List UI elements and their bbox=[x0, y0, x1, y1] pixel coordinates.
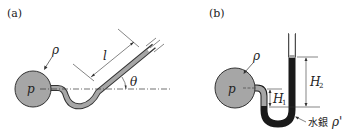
mercury-density-label: ρ' bbox=[331, 115, 342, 129]
angle-label: θ bbox=[130, 75, 138, 89]
pressure-label-a: p bbox=[27, 82, 35, 96]
u-tube bbox=[250, 34, 292, 124]
pressure-label-b: p bbox=[228, 82, 236, 96]
inclined-tube-outline bbox=[48, 46, 154, 106]
l-dimension-line bbox=[91, 42, 134, 77]
mercury-arrow bbox=[295, 117, 299, 120]
manometer-diagram: (a) l θ ρ p (b) bbox=[0, 0, 350, 134]
panel-b: (b) p ρ H 1 H 2 水銀 bbox=[209, 7, 342, 129]
h1-subscript: 1 bbox=[282, 99, 286, 107]
mercury-label: 水銀 bbox=[308, 116, 328, 128]
h2-subscript: 2 bbox=[319, 82, 323, 90]
l-extension-line-lower bbox=[73, 64, 94, 81]
panel-a-label: (a) bbox=[7, 7, 22, 20]
panel-a: (a) l θ ρ p bbox=[7, 7, 170, 107]
right-leg-empty bbox=[289, 33, 295, 57]
length-label: l bbox=[103, 49, 107, 63]
density-label-b: ρ bbox=[252, 49, 260, 63]
density-label-a: ρ bbox=[51, 43, 59, 57]
panel-b-label: (b) bbox=[209, 7, 225, 20]
l-extension-line-upper bbox=[118, 29, 139, 47]
